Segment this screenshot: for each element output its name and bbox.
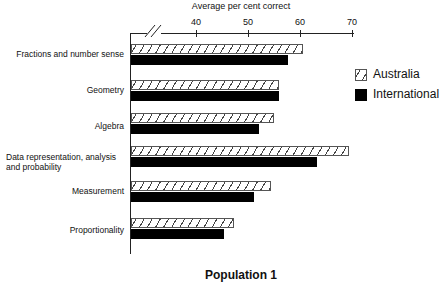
bar-australia-proportionality xyxy=(131,218,234,228)
tick-70 xyxy=(352,30,353,37)
category-label: Fractions and number sense xyxy=(0,49,124,59)
bar-international-fractions xyxy=(131,55,288,65)
bar-australia-algebra xyxy=(131,113,274,123)
tick-label-70: 70 xyxy=(337,17,367,27)
category-label: Measurement xyxy=(0,186,124,196)
category-label: Proportionality xyxy=(0,225,124,235)
bar-australia-measurement xyxy=(131,181,271,191)
tick-50 xyxy=(248,30,249,37)
category-label: Data representation, analysis and probab… xyxy=(6,152,130,172)
bar-international-geometry xyxy=(131,91,279,101)
chart-caption: Population 1 xyxy=(130,268,352,282)
bar-international-measurement xyxy=(131,192,254,202)
category-label: Geometry xyxy=(0,85,124,95)
category-label: Algebra xyxy=(0,121,124,131)
axis-break-icon xyxy=(143,24,165,38)
tick-40 xyxy=(196,30,197,37)
tick-60 xyxy=(300,30,301,37)
tick-label-40: 40 xyxy=(181,17,211,27)
bar-international-algebra xyxy=(131,124,259,134)
bar-international-proportionality xyxy=(131,229,224,239)
tick-label-60: 60 xyxy=(285,17,315,27)
tick-label-50: 50 xyxy=(233,17,263,27)
bar-international-data-representation xyxy=(131,157,317,167)
legend-label: Australia xyxy=(373,67,420,81)
legend-label: International xyxy=(373,87,439,101)
hatched-swatch-icon xyxy=(355,69,367,81)
axis-title: Average per cent correct xyxy=(130,1,352,11)
bar-australia-fractions xyxy=(131,44,303,54)
bar-australia-geometry xyxy=(131,80,279,90)
bar-australia-data-representation xyxy=(131,146,349,156)
solid-swatch-icon xyxy=(355,89,367,101)
